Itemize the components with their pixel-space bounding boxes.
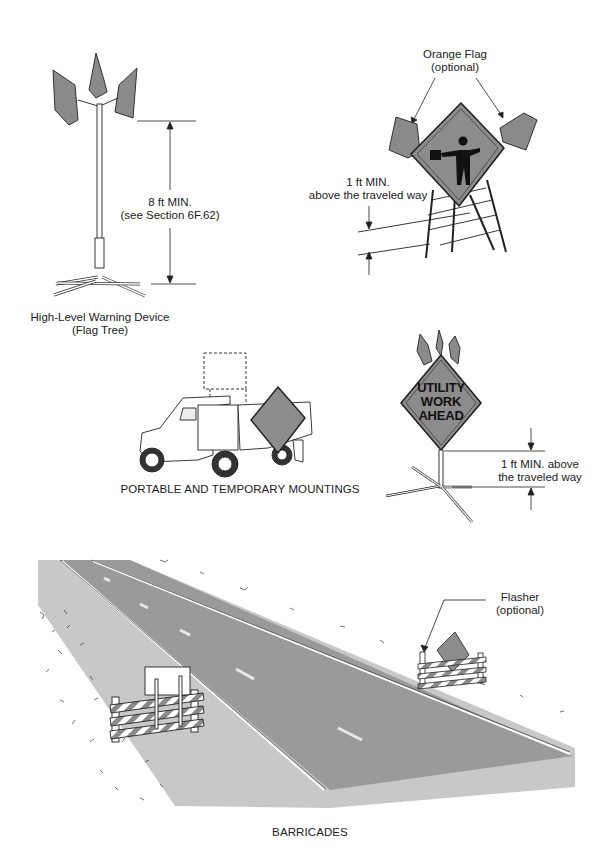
- caption-line1: High-Level Warning Device: [15, 311, 185, 324]
- flasher-label-line1: Flasher: [485, 591, 555, 604]
- height-label-line1: 1 ft MIN.: [298, 176, 438, 189]
- orange-flag-label: Orange Flag (optional): [405, 48, 505, 74]
- portable-mountings-caption: PORTABLE AND TEMPORARY MOUNTINGS: [120, 483, 360, 496]
- diagram-canvas: [0, 0, 605, 866]
- caption-line2: (Flag Tree): [15, 324, 185, 337]
- height-label-line2: the traveled way: [485, 471, 595, 484]
- flag-tree-height-label: 8 ft MIN. (see Section 6F.62): [115, 196, 225, 222]
- flag-label-line2: (optional): [405, 61, 505, 74]
- dimension-label-line1: 8 ft MIN.: [115, 196, 225, 209]
- flag-tree-caption: High-Level Warning Device (Flag Tree): [15, 311, 185, 337]
- sign-line3: AHEAD: [411, 409, 471, 423]
- barricades-caption: BARRICADES: [250, 826, 370, 839]
- pickup-truck-illustration: [140, 353, 312, 477]
- flag-label-line1: Orange Flag: [405, 48, 505, 61]
- sign-line2: WORK: [411, 395, 471, 409]
- flagger-height-label: 1 ft MIN. above the traveled way: [298, 176, 438, 202]
- height-label-line1: 1 ft MIN. above: [485, 458, 595, 471]
- sign-line1: UTILITY: [411, 381, 471, 395]
- height-label-line2: above the traveled way: [298, 189, 438, 202]
- utility-sign-illustration: [386, 330, 481, 522]
- utility-height-label: 1 ft MIN. above the traveled way: [485, 458, 595, 484]
- flag-tree-illustration: [53, 53, 145, 296]
- dimension-label-line2: (see Section 6F.62): [115, 209, 225, 222]
- utility-sign-legend: UTILITY WORK AHEAD: [411, 381, 471, 423]
- flasher-label-line2: (optional): [485, 604, 555, 617]
- flasher-label: Flasher (optional): [485, 591, 555, 617]
- barricade-right: [418, 600, 486, 689]
